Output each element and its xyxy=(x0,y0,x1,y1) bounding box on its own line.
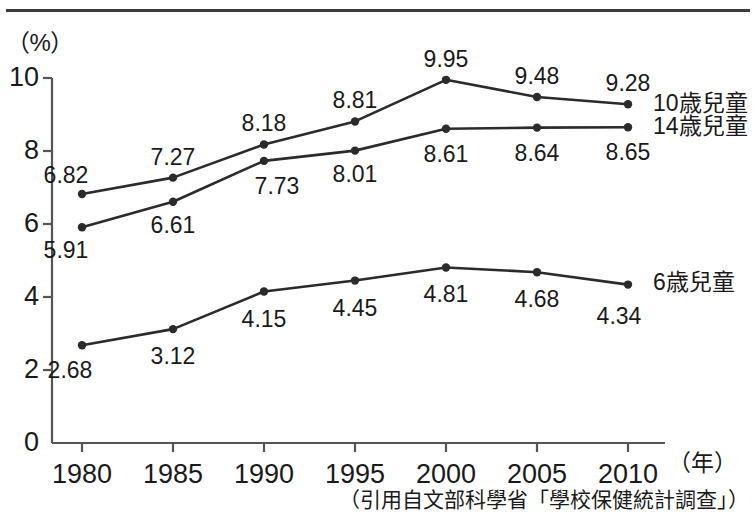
y-axis-tick-label: 6 xyxy=(1,210,39,237)
data-point-value-label: 8.65 xyxy=(593,141,663,164)
series-label-1: 14歳兒童 xyxy=(653,115,748,138)
y-axis-tick-label: 10 xyxy=(1,64,39,91)
data-point-value-label: 8.18 xyxy=(229,112,299,135)
data-point-value-label: 8.81 xyxy=(320,89,390,112)
chart-figure: （%） （年） 0246810 198019851990199520002005… xyxy=(0,0,755,520)
y-axis-tick-label: 0 xyxy=(1,429,39,456)
data-point-value-label: 2.68 xyxy=(35,359,105,382)
data-point-value-label: 8.01 xyxy=(320,163,390,186)
series-label-0: 10歳兒童 xyxy=(653,92,748,115)
x-axis-tick-label: 2000 xyxy=(401,461,491,488)
x-axis-tick-label: 1980 xyxy=(37,461,127,488)
data-point-value-label: 9.48 xyxy=(502,65,572,88)
x-axis-tick-label: 1990 xyxy=(219,461,309,488)
y-axis-tick-label: 2 xyxy=(1,356,39,383)
chart-axes xyxy=(43,78,665,452)
x-axis-tick-label: 1985 xyxy=(128,461,218,488)
data-point-value-label: 7.27 xyxy=(138,146,208,169)
data-point-value-label: 5.91 xyxy=(31,239,101,262)
x-axis-tick-label: 1995 xyxy=(310,461,400,488)
x-axis-tick-label: 2010 xyxy=(583,461,673,488)
data-point-value-label: 4.68 xyxy=(502,288,572,311)
y-axis-tick-label: 8 xyxy=(1,137,39,164)
data-point-value-label: 4.15 xyxy=(229,308,299,331)
data-point-value-label: 9.95 xyxy=(411,48,481,71)
data-point-value-label: 7.73 xyxy=(242,175,312,198)
data-point-value-label: 6.61 xyxy=(138,214,208,237)
x-axis-tick-label: 2005 xyxy=(492,461,582,488)
y-axis-tick-label: 4 xyxy=(1,283,39,310)
data-point-value-label: 3.12 xyxy=(138,345,208,368)
data-point-value-label: 8.64 xyxy=(502,142,572,165)
source-caption: （引用自文部科學省「學校保健統計調查」） xyxy=(0,489,749,510)
data-point-value-label: 4.45 xyxy=(320,297,390,320)
data-point-value-label: 6.82 xyxy=(31,164,101,187)
data-point-value-label: 4.34 xyxy=(584,305,654,328)
data-point-value-label: 8.61 xyxy=(411,143,481,166)
series-label-2: 6歳兒童 xyxy=(653,271,735,294)
data-point-value-label: 4.81 xyxy=(411,283,481,306)
